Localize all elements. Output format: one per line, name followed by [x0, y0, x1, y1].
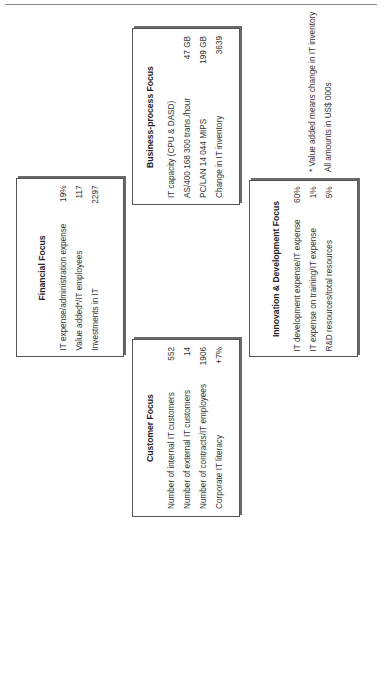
- customer-row: Number of internal IT customers552: [164, 347, 180, 509]
- customer-row: Number of external IT customers14: [180, 347, 196, 509]
- innovation-row: R&D resources/total resources5%: [321, 186, 337, 351]
- business-row: Change in IT inventory3639: [212, 36, 228, 198]
- footnote-value-added: * Value added means change in IT invento…: [308, 12, 317, 172]
- innovation-row: IT development expense/IT expense60%: [289, 186, 305, 351]
- business-process-focus-box: Business-process Focus IT capacity (CPU …: [132, 28, 240, 205]
- financial-focus-box: Financial Focus IT expense/administratio…: [16, 178, 124, 357]
- customer-row: Number of contracts/IT employees1906: [196, 347, 212, 509]
- innovation-development-focus-title: Innovation & Development Focus: [270, 186, 280, 351]
- financial-row: Investments in IT2297: [88, 185, 104, 350]
- business-row: PC/LAN 14 044 MIPS199 GB: [196, 36, 212, 198]
- business-row: IT capacity (CPU & DASD): [164, 36, 180, 198]
- financial-row: Value added*/IT employees117: [72, 185, 88, 350]
- customer-focus-box: Customer Focus Number of internal IT cus…: [132, 339, 240, 517]
- innovation-development-focus-box: Innovation & Development Focus IT develo…: [249, 180, 358, 357]
- financial-row: IT expense/administration expense19%: [56, 185, 72, 350]
- financial-focus-title: Financial Focus: [37, 185, 47, 350]
- innovation-row: IT expense on training/IT expense1%: [305, 186, 321, 351]
- business-row: AS/400 168 300 trans./hour47 GB: [180, 36, 196, 198]
- business-process-focus-title: Business-process Focus: [145, 36, 155, 198]
- footnote-amounts: All amounts in US$ 000s: [324, 82, 333, 172]
- customer-focus-title: Customer Focus: [145, 347, 155, 509]
- customer-row: Corporate IT literacy+7%: [212, 347, 228, 509]
- top-rule: [5, 4, 377, 5]
